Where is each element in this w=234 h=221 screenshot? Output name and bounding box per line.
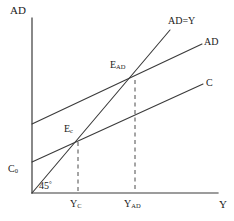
keynesian-cross-figure: AD Y AD=Y AD C EAD Ec C0 45° YC YAD <box>0 0 234 221</box>
angle-value: 45 <box>39 180 49 191</box>
y-axis-label: AD <box>10 5 26 16</box>
autonomous-consumption-intercept-label: C0 <box>8 164 18 175</box>
forty-five-degree-angle-label: 45° <box>39 181 52 191</box>
intercept-label-subscript: 0 <box>15 167 18 174</box>
equilibrium-ad-label-subscript: AD <box>116 63 125 70</box>
aggregate-demand-line-label: AD <box>204 37 218 47</box>
degree-symbol: ° <box>49 180 52 188</box>
equilibrium-c-label-subscript: c <box>70 127 73 134</box>
aggregate-demand-line <box>32 44 202 124</box>
forty-five-degree-line <box>32 30 170 193</box>
equilibrium-c-label: Ec <box>64 124 73 135</box>
consumption-line-label: C <box>206 78 213 88</box>
plot-canvas <box>0 0 234 221</box>
equilibrium-ad-label: EAD <box>110 60 126 71</box>
x-tick-yad-subscript: AD <box>131 202 140 209</box>
intercept-label-main: C <box>8 163 15 174</box>
x-axis-label: Y <box>219 199 227 210</box>
consumption-line <box>32 84 203 162</box>
x-tick-yc-subscript: C <box>77 202 81 209</box>
forty-five-degree-line-label: AD=Y <box>168 16 195 26</box>
x-tick-label-yad: YAD <box>124 199 141 210</box>
x-tick-label-yc: YC <box>70 199 82 210</box>
